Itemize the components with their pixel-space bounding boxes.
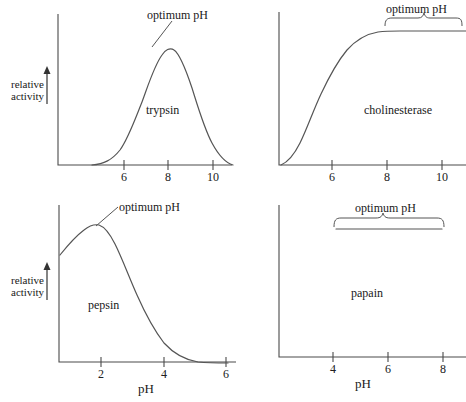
pepsin-xtick-2: 2 <box>91 367 111 382</box>
trypsin-optimum-leader <box>152 21 172 47</box>
panel-cholinesterase-axes <box>279 12 466 170</box>
trypsin-label: trypsin <box>146 103 179 118</box>
y-axis-label-line1: relative <box>11 274 44 286</box>
pepsin-optimum-leader <box>96 207 118 226</box>
cholinesterase-xtick-10: 10 <box>431 170 453 185</box>
y-axis-label-line2: activity <box>11 90 44 102</box>
pepsin-xtick-4: 4 <box>154 367 174 382</box>
papain-xtick-8: 8 <box>433 362 453 377</box>
pepsin-xaxis-title: pH <box>138 381 154 397</box>
trypsin-optimum-ph-label: optimum pH <box>147 8 208 23</box>
pepsin-label: pepsin <box>88 298 119 313</box>
trypsin-xtick-10: 10 <box>202 170 224 185</box>
papain-xtick-4: 4 <box>323 362 343 377</box>
cholinesterase-optimum-ph-label: optimum pH <box>386 2 447 17</box>
y-axis-label-trypsin: relative activity <box>4 78 44 102</box>
cholinesterase-curve <box>281 31 466 165</box>
papain-optimum-ph-label: optimum pH <box>355 201 416 216</box>
trypsin-y-arrow <box>44 66 51 104</box>
pepsin-optimum-ph-label: optimum pH <box>119 200 180 215</box>
cholinesterase-xtick-8: 8 <box>377 170 397 185</box>
y-axis-label-line1: relative <box>11 78 44 90</box>
cholinesterase-label: cholinesterase <box>364 103 432 118</box>
cholinesterase-xtick-6: 6 <box>322 170 342 185</box>
y-axis-label-pepsin: relative activity <box>4 274 44 298</box>
papain-xaxis-title: pH <box>355 376 371 392</box>
trypsin-xtick-6: 6 <box>114 170 134 185</box>
papain-xtick-6: 6 <box>378 362 398 377</box>
y-axis-label-line2: activity <box>11 286 44 298</box>
papain-label: papain <box>351 286 383 301</box>
pepsin-xtick-6: 6 <box>216 367 236 382</box>
pepsin-y-arrow <box>44 262 51 300</box>
trypsin-xtick-8: 8 <box>158 170 178 185</box>
pepsin-curve <box>60 225 228 363</box>
enzyme-ph-activity-figure: relative activity optimum pH trypsin 6 8… <box>0 0 466 402</box>
